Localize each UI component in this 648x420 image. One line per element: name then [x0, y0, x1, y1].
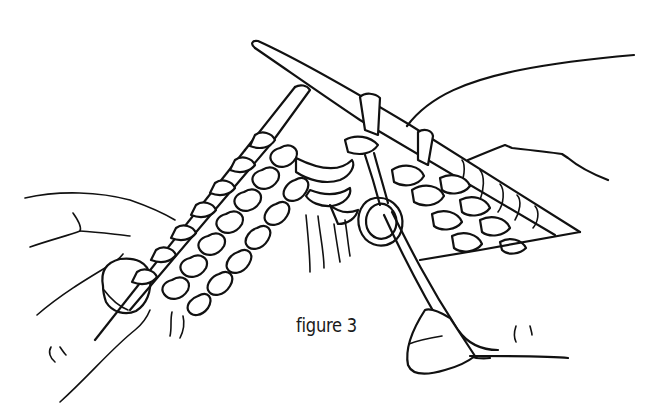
- fabric-left: [132, 133, 308, 338]
- figure-caption: figure 3: [296, 314, 357, 336]
- left-hand-outline: [25, 193, 175, 402]
- right-forefinger: [407, 309, 568, 373]
- right-needle-stitches: [360, 94, 538, 228]
- right-hand-outline: [407, 55, 634, 180]
- knitting-figure: figure 3: [0, 0, 648, 420]
- fabric-right: [392, 166, 580, 260]
- knitting-illustration: [0, 0, 648, 420]
- right-needle: [252, 41, 580, 235]
